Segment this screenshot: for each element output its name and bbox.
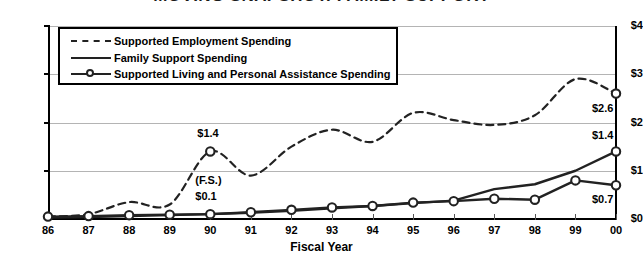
legend-item-supported-living: Supported Living and Personal Assistance… [68,67,390,81]
series-line-0 [48,79,616,217]
dashed-line-icon [68,35,114,47]
solid-line-icon [68,52,114,64]
data-point-marker [612,147,620,155]
data-point-marker [531,196,539,204]
circle-marker-line-icon [68,68,114,80]
data-point-marker [44,212,52,220]
data-point-marker [571,176,579,184]
data-point-marker [328,203,336,211]
data-point-marker [612,89,620,97]
data-label: $1.4 [592,129,613,141]
data-point-marker [409,198,417,206]
legend-label: Supported Employment Spending [114,35,291,47]
data-point-marker [247,208,255,216]
data-point-marker [84,212,92,220]
data-label: $2.6 [592,102,613,114]
data-point-marker [368,202,376,210]
data-point-marker [450,197,458,205]
x-axis-title: Fiscal Year [0,240,643,254]
legend-label: Family Support Spending [114,52,247,64]
data-point-marker [490,195,498,203]
data-point-marker [612,181,620,189]
data-label: $0.1 [195,190,216,202]
chart-container: MOVING SNAPSHOT: FAMILY SUPPORT $0$1$2$3… [0,0,643,263]
data-point-marker [166,210,174,218]
data-point-marker [125,211,133,219]
data-label: $0.7 [592,193,613,205]
data-label: (F.S.) [195,174,221,186]
data-point-marker [206,210,214,218]
data-point-marker [206,147,214,155]
legend-item-supported-employment: Supported Employment Spending [68,34,291,48]
legend-item-family-support: Family Support Spending [68,51,247,65]
chart-legend: Supported Employment Spending Family Sup… [58,27,398,85]
legend-label: Supported Living and Personal Assistance… [114,68,390,80]
data-point-marker [287,206,295,214]
data-label: $1.4 [197,127,218,139]
